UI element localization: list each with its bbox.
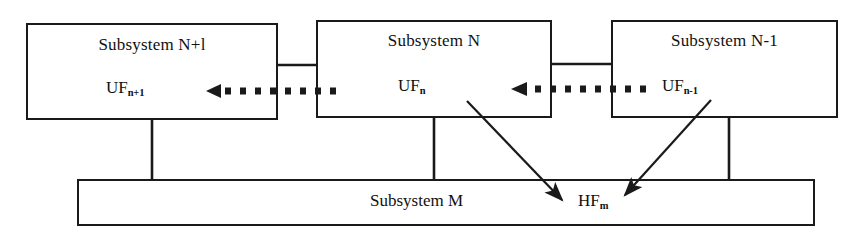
subsystem-n-title: Subsystem N (318, 31, 550, 51)
uf-label-n-minus-1-text: UF (662, 76, 684, 95)
uf-label-n-minus-1: UFn-1 (662, 76, 698, 96)
uf-label-n-sub: n (420, 85, 426, 96)
subsystem-n-minus-1-title: Subsystem N-1 (613, 31, 836, 51)
hf-label-m-text: HF (578, 191, 600, 210)
diagram-canvas: Subsystem N+l UFn+1 Subsystem N UFn Subs… (0, 0, 863, 240)
uf-label-n-minus-1-sub: n-1 (684, 85, 698, 96)
uf-label-n-plus-1-sub: n+1 (128, 87, 144, 98)
hf-label-m-sub: m (600, 200, 609, 211)
subsystem-n-plus-1-title: Subsystem N+l (28, 35, 276, 55)
uf-label-n-plus-1-text: UF (106, 78, 128, 97)
hf-label-m: HFm (578, 191, 608, 211)
uf-label-n: UFn (398, 76, 425, 96)
subsystem-m-title: Subsystem M (370, 191, 463, 211)
subsystem-box-n-plus-1[interactable]: Subsystem N+l UFn+1 (26, 23, 278, 120)
subsystem-box-n-minus-1[interactable]: Subsystem N-1 UFn-1 (611, 20, 838, 118)
subsystem-box-n[interactable]: Subsystem N UFn (316, 20, 552, 118)
uf-label-n-plus-1: UFn+1 (106, 78, 144, 98)
uf-label-n-text: UF (398, 76, 420, 95)
